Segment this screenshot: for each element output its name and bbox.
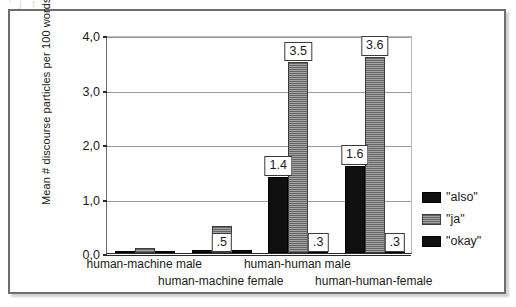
bar-value-label: 1.4 xyxy=(265,156,292,176)
bar-group: .5 xyxy=(184,37,261,253)
legend-swatch-icon xyxy=(422,192,441,203)
legend-label: "okay" xyxy=(446,234,481,248)
bar-okay[interactable]: .3 xyxy=(308,237,328,253)
y-axis-title: Mean # discourse particles per 100 words xyxy=(40,5,52,205)
bar-also[interactable]: 1.4 xyxy=(268,177,288,253)
chart-plot-wrapper: Mean # discourse particles per 100 words… xyxy=(10,11,508,296)
legend-item-okay[interactable]: "okay" xyxy=(422,230,506,252)
gridline xyxy=(107,255,411,256)
figure-frame: Mean # discourse particles per 100 words… xyxy=(8,9,506,294)
chart-legend: "also""ja""okay" xyxy=(422,186,506,252)
bar-group: 1.63.6.3 xyxy=(337,37,414,253)
bar-value-label: .5 xyxy=(212,233,232,253)
legend-item-ja[interactable]: "ja" xyxy=(422,208,506,230)
bar-value-label: .3 xyxy=(308,233,328,253)
y-tick-mark xyxy=(103,254,107,256)
bar-group: 1.43.5.3 xyxy=(260,37,337,253)
bar-value-label: 3.5 xyxy=(285,42,312,62)
y-tick-label: 4,0 xyxy=(83,30,100,44)
bar-ja[interactable] xyxy=(135,248,155,253)
x-axis-label: human-human-female xyxy=(315,274,432,288)
bar-okay[interactable] xyxy=(155,251,175,253)
x-axis-label: human-machine female xyxy=(158,274,283,288)
bar-ja[interactable]: .5 xyxy=(212,226,232,253)
bar-okay[interactable] xyxy=(232,250,252,253)
x-axis-labels: human-machine malehuman-machine femalehu… xyxy=(106,257,412,293)
bar-group xyxy=(107,37,184,253)
bar-value-label: 1.6 xyxy=(341,145,368,165)
y-tick-label: 1,0 xyxy=(83,194,100,208)
bar-also[interactable] xyxy=(192,250,212,253)
y-tick-label: 2,0 xyxy=(83,139,100,153)
y-tick-label: 3,0 xyxy=(83,85,100,99)
legend-label: "also" xyxy=(446,190,478,204)
plot-area: 0,01,02,03,04,0 .51.43.5.31.63.6.3 xyxy=(106,36,412,254)
x-axis-label: human-human male xyxy=(244,257,351,271)
bar-okay[interactable]: .3 xyxy=(385,237,405,253)
bar-value-label: .3 xyxy=(385,233,405,253)
legend-swatch-icon xyxy=(422,214,441,225)
scan-artifact: ＇ｊ ｔ ｊ xyxy=(6,0,156,9)
bar-also[interactable] xyxy=(115,251,135,253)
bar-groups-layer: .51.43.5.31.63.6.3 xyxy=(107,37,411,253)
bar-value-label: 3.6 xyxy=(361,36,388,56)
legend-item-also[interactable]: "also" xyxy=(422,186,506,208)
bar-also[interactable]: 1.6 xyxy=(345,166,365,253)
legend-label: "ja" xyxy=(446,212,465,226)
legend-swatch-icon xyxy=(422,236,441,247)
x-axis-label: human-machine male xyxy=(87,257,202,271)
